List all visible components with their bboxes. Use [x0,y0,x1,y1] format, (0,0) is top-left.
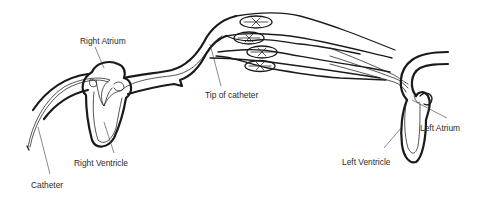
label-left-ventricle: Left Ventricle [342,157,391,167]
right-heart [83,62,131,147]
leader-right-ventricle [104,122,114,153]
label-tip-of-catheter: Tip of catheter [205,90,258,100]
catheter-heart-diagram: Right Atrium Right Ventricle Catheter Ti… [0,0,491,200]
alveolus-1 [240,16,272,28]
leader-left-ventricle [384,128,401,148]
catheter-line [27,36,222,150]
leader-tip-of-catheter [210,44,221,86]
label-right-ventricle: Right Ventricle [74,158,128,168]
label-left-atrium: Left Atrium [420,123,460,133]
capillary-bed [210,13,395,80]
leader-catheter [38,127,50,174]
alveolus-4 [245,61,275,72]
label-catheter: Catheter [31,180,63,190]
pulmonary-artery [124,16,236,94]
alveolus-3 [247,46,277,58]
label-right-atrium: Right Atrium [80,36,126,46]
pulmonary-veins [330,48,408,92]
